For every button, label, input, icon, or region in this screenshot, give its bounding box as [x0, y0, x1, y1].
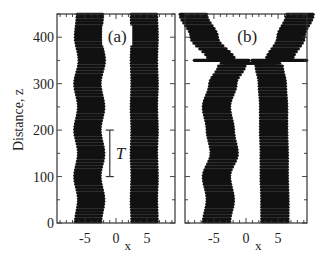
beam-stripe	[209, 154, 239, 157]
beam-stripe	[260, 200, 290, 203]
beam-stripe	[259, 165, 289, 168]
x-tick-label: 0	[113, 231, 120, 246]
beam-stripe	[205, 122, 235, 125]
beam-stripe	[205, 194, 235, 197]
beam-stripe	[204, 96, 234, 99]
beam-stripe	[74, 180, 103, 183]
beam-stripe	[189, 36, 219, 39]
beam-stripe	[203, 183, 233, 186]
beam-stripe	[260, 188, 290, 191]
figure: -505x0100200300400(a)T -505x(b) Distance…	[0, 0, 323, 255]
beam-stripe	[260, 194, 290, 197]
beam-stripe	[207, 88, 237, 91]
y-tick-label: 400	[33, 30, 54, 45]
beam-stripe	[77, 197, 106, 200]
beam-stripe	[76, 145, 105, 148]
beam-stripe	[76, 157, 105, 160]
beam-stripe	[258, 85, 288, 88]
y-tick-label: 300	[33, 77, 54, 92]
beam-stripe	[260, 217, 290, 220]
beam-stripe	[73, 85, 102, 88]
beam-stripe	[202, 105, 232, 108]
x-tick-label: 5	[275, 231, 282, 246]
beam-stripe	[77, 105, 106, 108]
beam-stripe	[76, 47, 105, 50]
beam-stripe	[259, 122, 289, 125]
beam-stripe	[130, 33, 159, 36]
beam-stripe	[76, 160, 105, 163]
beam-stripe	[130, 50, 159, 53]
beam-stripe	[73, 174, 102, 177]
beam-stripe	[130, 73, 159, 76]
beam-stripe	[204, 188, 234, 191]
beam-stripe	[130, 165, 159, 168]
beam-stripe	[202, 102, 232, 105]
beam-stripe	[130, 65, 159, 68]
beam-stripe	[259, 102, 289, 105]
beam-stripe	[202, 171, 232, 174]
beam-stripe	[130, 125, 159, 128]
beam-stripe	[130, 67, 159, 70]
beam-stripe	[259, 145, 289, 148]
beam-stripe	[259, 125, 289, 128]
beam-stripe	[255, 70, 285, 73]
beam-stripe	[130, 30, 159, 33]
beam-stripe	[130, 27, 159, 30]
beam-stripe	[274, 41, 304, 44]
beam-stripe	[214, 70, 244, 73]
beam-stripe	[76, 142, 105, 145]
beam-stripe	[206, 90, 236, 93]
beam-stripe	[209, 79, 239, 82]
beam-stripe	[76, 99, 105, 102]
beam-stripe	[259, 154, 289, 157]
beam-stripe	[77, 203, 106, 206]
x-tick-label: 0	[243, 231, 250, 246]
beam-stripe	[74, 33, 103, 36]
beam-stripe	[74, 76, 103, 79]
beam-stripe	[207, 139, 237, 142]
beam-stripe	[130, 88, 159, 91]
beam-stripe	[259, 171, 289, 174]
beam-stripe	[74, 168, 103, 171]
beam-stripe	[75, 73, 104, 76]
beam-stripe	[130, 203, 159, 206]
beam-stripe	[203, 211, 233, 214]
beam-stripe	[130, 53, 159, 56]
beam-stripe	[74, 134, 103, 137]
y-tick-label: 200	[33, 123, 54, 138]
beam-stripe	[202, 174, 232, 177]
beam-stripe	[74, 39, 103, 42]
beam-stripe	[73, 125, 102, 128]
beam-stripe	[130, 70, 159, 73]
beam-stripe	[217, 65, 247, 68]
beam-stripe	[74, 183, 103, 186]
beam-stripe	[257, 76, 287, 79]
beam-stripe	[130, 145, 159, 148]
x-tick-label: -5	[79, 231, 91, 246]
beam-stripe	[258, 96, 288, 99]
y-axis-label: Distance, z	[11, 89, 26, 151]
beam-stripe	[130, 151, 159, 154]
period-annotation: T	[106, 130, 127, 176]
beam-stripe	[284, 18, 314, 21]
beam-stripe	[130, 90, 159, 93]
beam-stripe	[77, 148, 106, 151]
beam-stripe	[130, 85, 159, 88]
beam-stripe	[130, 99, 159, 102]
beam-stripe	[205, 203, 235, 206]
beam-stripe	[259, 148, 289, 151]
beam-stripe	[206, 197, 236, 200]
beam-stripe	[130, 76, 159, 79]
beam-stripe	[75, 44, 104, 47]
beam-stripe	[254, 65, 284, 68]
beam-stripe	[130, 171, 159, 174]
beam-stripe	[257, 79, 287, 82]
beam-stripe	[74, 214, 103, 217]
beam-stripe	[202, 180, 232, 183]
beam-stripe	[130, 18, 159, 21]
beam-stripe	[273, 44, 303, 47]
beam-stripe	[130, 119, 159, 122]
beam-stripe	[259, 151, 289, 154]
beam-stripe	[260, 185, 290, 188]
beam-stripe	[75, 93, 104, 96]
